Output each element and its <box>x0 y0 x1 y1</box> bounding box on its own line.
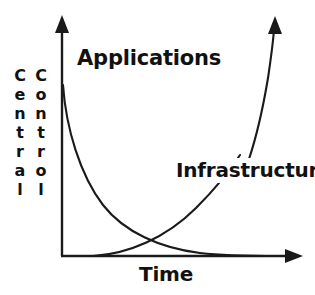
y-axis-letter: r <box>37 142 45 161</box>
y-axis-letter: l <box>38 180 43 199</box>
y-axis-letter: C <box>35 66 47 85</box>
y-axis-letter: n <box>14 104 25 123</box>
y-axis-letter: C <box>14 66 26 85</box>
y-axis-letter: a <box>15 161 26 180</box>
y-axis-arrowhead <box>55 15 69 33</box>
diagram-canvas: Central Control Applications Infrastruct… <box>0 0 315 295</box>
y-axis-label-central: Central <box>12 66 28 199</box>
x-axis-label-time: Time <box>139 264 193 284</box>
y-axis-letter: o <box>36 161 47 180</box>
x-axis-arrowhead <box>285 249 303 263</box>
y-axis-letter: n <box>35 104 46 123</box>
y-axis-letter: t <box>16 123 24 142</box>
y-axis-letter: e <box>15 85 26 104</box>
y-axis-letter: t <box>37 123 45 142</box>
y-axis-letter: l <box>17 180 22 199</box>
y-axis-letter: o <box>36 85 47 104</box>
applications-label: Applications <box>77 48 221 69</box>
y-axis-letter: r <box>16 142 24 161</box>
infrastructure-label: Infrastructure <box>174 158 315 183</box>
infrastructure-curve-arrowhead <box>268 16 282 34</box>
y-axis <box>55 15 69 256</box>
y-axis-label-control: Control <box>33 66 49 199</box>
